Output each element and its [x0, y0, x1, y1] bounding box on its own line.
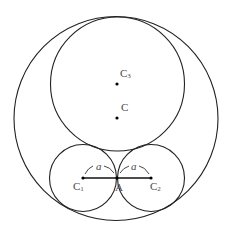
- point-c3: [115, 82, 118, 85]
- label-a: A: [115, 181, 123, 193]
- dimension-arc-left-b: [104, 166, 114, 173]
- label-distance-a-left: a: [96, 160, 102, 172]
- label-c1: C1: [73, 180, 84, 193]
- point-c1: [81, 176, 84, 179]
- dimension-arc-right-a: [120, 166, 129, 173]
- dimension-arc-right-b: [139, 166, 149, 174]
- label-c: C: [121, 101, 128, 113]
- dimension-arc-left-a: [85, 166, 93, 174]
- label-c3: C3: [120, 67, 131, 80]
- point-c: [115, 116, 118, 119]
- label-c2: C2: [150, 180, 161, 193]
- point-a: [115, 176, 118, 179]
- geometry-diagram: C3 C C1 A C2 a a: [0, 0, 232, 233]
- label-distance-a-right: a: [131, 160, 137, 172]
